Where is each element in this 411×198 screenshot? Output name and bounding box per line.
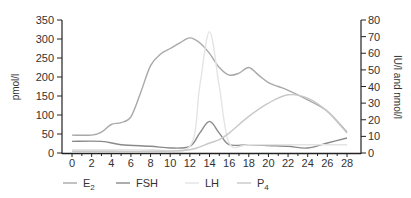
x-tick-label: 24 xyxy=(302,157,314,169)
hormone-chart: 050100150200250300350 01020304050607080 … xyxy=(0,0,411,198)
x-tick-label: 10 xyxy=(164,157,176,169)
x-tick-label: 0 xyxy=(69,157,75,169)
x-tick-label: 26 xyxy=(321,157,333,169)
x-tick-label: 20 xyxy=(262,157,274,169)
series-line-lh xyxy=(72,32,347,152)
right-tick-label: 40 xyxy=(368,81,380,93)
left-tick-label: 100 xyxy=(36,109,54,121)
legend-label-p4: P4 xyxy=(257,177,269,192)
x-tick-label: 22 xyxy=(282,157,294,169)
x-tick-label: 14 xyxy=(203,157,215,169)
right-tick-label: 80 xyxy=(368,14,380,26)
left-tick-label: 50 xyxy=(42,128,54,140)
right-tick-label: 50 xyxy=(368,64,380,76)
left-axis-label: pmol/l xyxy=(10,74,21,101)
left-tick-label: 200 xyxy=(36,71,54,83)
legend: E2FSHLHP4 xyxy=(63,177,269,192)
left-tick-label: 300 xyxy=(36,33,54,45)
left-tick-label: 350 xyxy=(36,14,54,26)
right-tick-label: 70 xyxy=(368,31,380,43)
x-tick-label: 4 xyxy=(108,157,114,169)
plot-lines xyxy=(72,32,347,152)
right-tick-label: 30 xyxy=(368,97,380,109)
right-tick-label: 20 xyxy=(368,114,380,126)
x-tick-label: 6 xyxy=(128,157,134,169)
left-axis-ticks: 050100150200250300350 xyxy=(36,14,62,159)
legend-label-fsh: FSH xyxy=(136,177,158,189)
right-axis-ticks: 01020304050607080 xyxy=(361,14,380,159)
right-tick-label: 0 xyxy=(368,147,374,159)
x-tick-label: 8 xyxy=(148,157,154,169)
x-tick-label: 12 xyxy=(184,157,196,169)
right-tick-label: 60 xyxy=(368,47,380,59)
x-tick-label: 18 xyxy=(243,157,255,169)
x-axis-ticks: 0246810121416182022242628 xyxy=(69,153,353,169)
left-tick-label: 250 xyxy=(36,52,54,64)
legend-label-lh: LH xyxy=(205,177,219,189)
legend-label-e2: E2 xyxy=(83,177,95,192)
left-tick-label: 150 xyxy=(36,90,54,102)
left-tick-label: 0 xyxy=(48,147,54,159)
x-tick-label: 2 xyxy=(89,157,95,169)
right-tick-label: 10 xyxy=(368,130,380,142)
x-tick-label: 28 xyxy=(341,157,353,169)
right-axis-label: IU/l and nmol/l xyxy=(392,55,403,119)
x-tick-label: 16 xyxy=(223,157,235,169)
